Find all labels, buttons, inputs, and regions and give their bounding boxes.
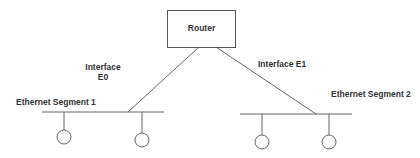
link-interface-e1 [216,47,316,114]
segment-1-host-2 [135,133,149,147]
ethernet-segment-1-label: Ethernet Segment 1 [16,97,96,107]
ethernet-segment-2-label: Ethernet Segment 2 [331,89,411,99]
segment-1-host-1 [57,130,71,144]
segment-2-host-2 [322,135,336,149]
segment-2-host-1 [255,135,269,149]
router-label: Router [167,23,236,33]
interface-e0-label-line2: E0 [80,72,126,82]
interface-e0-label: Interface E0 [80,62,126,82]
interface-e0-label-line1: Interface [80,62,126,72]
interface-e1-label: Interface E1 [258,59,306,69]
link-interface-e0 [128,47,199,112]
